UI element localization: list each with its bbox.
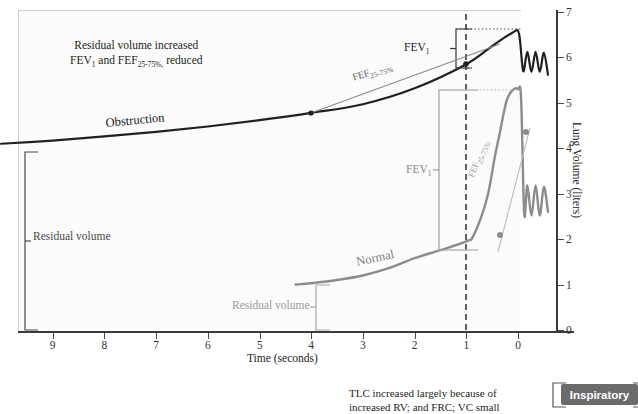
obstruction-note-line1: Residual volume increased [70,38,203,53]
residual-volume-label-normal: Residual volume [232,299,310,311]
caption-line-2: increased RV; and FRC; VC small [349,400,549,414]
fev1-label-normal: FEV1 [406,163,431,178]
fef-marker-normal-start [497,232,503,238]
fev1-label-obstruction: FEV1 [404,41,429,56]
figure-caption: TLC increased largely because of increas… [349,386,549,414]
caption-line-1: TLC increased largely because of [349,386,549,400]
fef-marker-obstruction-start [308,110,313,115]
obstruction-note: Residual volume increased FEV1 and FEF25… [70,38,203,72]
fef-slope-line-normal [498,128,530,252]
fef-marker-obstruction-end [463,61,469,67]
curve-normal [296,86,548,284]
inspiratory-button[interactable]: Inspiratory [561,384,638,405]
residual-volume-bracket-normal [310,285,330,330]
obstruction-note-line2: FEV1 and FEF25-75%, reduced [70,53,203,72]
fef-marker-normal-end [523,129,529,135]
residual-volume-label-obstruction: Residual volume [33,230,111,242]
